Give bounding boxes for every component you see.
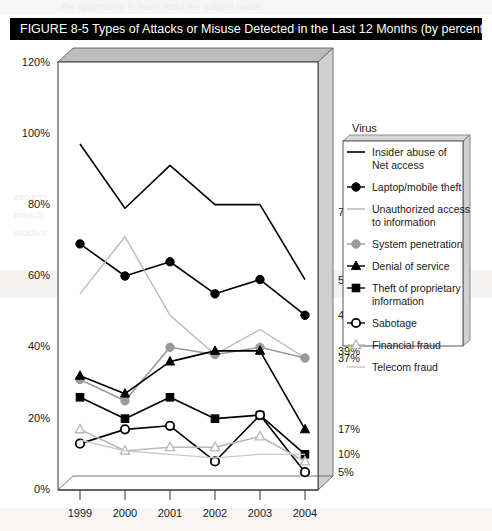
legend-label: Laptop/mobile theft [372, 181, 461, 193]
legend-label-line2: Net access [372, 159, 424, 171]
data-point-marker [352, 319, 360, 327]
data-point-marker [301, 354, 309, 362]
end-value-label: 5% [338, 466, 354, 478]
chart-container: 120% 100% 80% 60% 40% 20% 0% 1999 2000 2… [0, 40, 492, 531]
data-point-marker [301, 311, 309, 319]
chart-box-top-face [58, 48, 333, 62]
legend-label: Denial of service [372, 260, 450, 272]
data-point-marker [352, 240, 360, 248]
x-tick-label: 2000 [113, 507, 137, 519]
legend-label: Insider abuse of [372, 146, 447, 158]
data-point-marker [166, 393, 174, 401]
x-tick-label: 2001 [158, 507, 182, 519]
legend-label: System penetration [372, 238, 463, 250]
x-tick-label: 2002 [203, 507, 227, 519]
y-tick-label: 20% [28, 412, 50, 424]
legend-label-line2: information [372, 295, 424, 307]
data-point-marker [211, 415, 219, 423]
data-point-marker [352, 183, 360, 191]
data-point-marker [121, 397, 129, 405]
data-point-marker [121, 272, 129, 280]
data-point-marker [166, 258, 174, 266]
legend-box-side [463, 135, 470, 346]
legend-item-sabotage[interactable]: Sabotage [347, 317, 417, 329]
data-point-marker [121, 425, 129, 433]
data-point-marker [166, 422, 174, 430]
y-axis: 120% 100% 80% 60% 40% 20% 0% [22, 56, 50, 495]
line-chart: 120% 100% 80% 60% 40% 20% 0% 1999 2000 2… [0, 40, 492, 531]
x-tick-label: 2004 [293, 507, 317, 519]
legend-heading: Virus [352, 122, 377, 134]
data-point-marker [76, 393, 84, 401]
legend-item-telecom-fraud[interactable]: Telecom fraud [347, 361, 438, 373]
data-point-marker [352, 284, 360, 292]
data-point-marker [166, 343, 174, 351]
figure-title-banner: FIGURE 8-5 Types of Attacks or Misuse De… [10, 18, 482, 40]
legend-label: Financial fraud [372, 339, 441, 351]
legend-label: Sabotage [372, 317, 417, 329]
legend-label: Unauthorized access [372, 203, 470, 215]
y-tick-label: 120% [22, 56, 50, 68]
end-value-label: 37% [338, 352, 360, 364]
data-point-marker [211, 290, 219, 298]
data-point-marker [76, 240, 84, 248]
x-tick-label: 1999 [68, 507, 92, 519]
y-tick-label: 100% [22, 127, 50, 139]
chart-box-right-face [318, 48, 333, 490]
end-value-label: 10% [338, 448, 360, 460]
x-tick-label: 2003 [248, 507, 272, 519]
end-value-label: 17% [338, 423, 360, 435]
data-point-marker [256, 275, 264, 283]
y-tick-label: 40% [28, 340, 50, 352]
y-tick-label: 60% [28, 269, 50, 281]
y-tick-label: 0% [34, 483, 50, 495]
figure-title: FIGURE 8-5 Types of Attacks or Misuse De… [20, 21, 487, 38]
data-point-marker [256, 411, 264, 419]
data-point-marker [121, 415, 129, 423]
legend-label: Telecom fraud [372, 361, 438, 373]
chart-plot-area [58, 62, 318, 490]
y-tick-label: 80% [28, 198, 50, 210]
legend-box-top [343, 135, 470, 141]
data-point-marker [301, 468, 309, 476]
legend-label-line2: to information [372, 216, 436, 228]
legend-label: Theft of proprietary [372, 282, 461, 294]
